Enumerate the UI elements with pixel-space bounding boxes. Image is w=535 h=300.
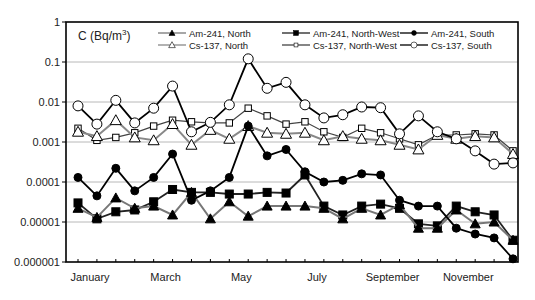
circle-marker xyxy=(262,83,272,93)
legend-item: Cs-137, South xyxy=(400,40,492,51)
y-tick-label: 0.0001 xyxy=(26,176,60,188)
circle-marker xyxy=(168,81,178,91)
circle-marker xyxy=(281,77,291,87)
circle-marker xyxy=(111,95,121,105)
y-axis-title-text: C (Bq/m3) xyxy=(78,28,130,43)
circle-marker xyxy=(300,100,310,110)
circle-marker xyxy=(131,187,139,195)
circle-marker xyxy=(244,122,252,130)
x-tick-label: March xyxy=(150,271,181,283)
circle-marker xyxy=(92,119,102,129)
circle-marker xyxy=(471,230,479,238)
legend-label: Cs-137, South xyxy=(431,40,492,51)
circle-marker xyxy=(489,159,499,169)
y-tick-label: 0.1 xyxy=(45,56,60,68)
circle-marker xyxy=(243,54,253,64)
legend: Am-241, NorthAm-241, North-WestAm-241, S… xyxy=(158,28,494,51)
circle-marker xyxy=(395,129,405,139)
circle-marker xyxy=(320,178,328,186)
circle-marker xyxy=(282,145,290,153)
circle-marker xyxy=(338,110,348,120)
circle-marker xyxy=(169,150,177,158)
square-marker xyxy=(226,120,232,126)
circle-marker xyxy=(319,113,329,123)
square-marker xyxy=(263,188,271,196)
series-line xyxy=(78,120,513,154)
circle-marker xyxy=(490,234,498,242)
legend-label: Am-241, South xyxy=(431,28,494,39)
circle-marker xyxy=(301,168,309,176)
circle-marker xyxy=(186,127,196,137)
circle-marker xyxy=(112,164,120,172)
legend-label: Am-241, North xyxy=(189,28,251,39)
series-line xyxy=(78,59,513,164)
legend-marker xyxy=(411,42,417,48)
circle-marker xyxy=(396,196,404,204)
legend-item: Cs-137, North xyxy=(158,40,248,51)
circle-marker xyxy=(412,31,417,36)
y-tick-label: 1 xyxy=(54,16,60,28)
square-marker xyxy=(377,200,385,208)
x-tick-label: January xyxy=(70,271,110,283)
square-marker xyxy=(302,119,308,125)
legend-marker xyxy=(412,31,417,36)
legend-label: Cs-137, North-West xyxy=(313,40,397,51)
square-marker xyxy=(294,43,298,47)
square-marker xyxy=(245,105,251,111)
legend-label: Cs-137, North xyxy=(189,40,248,51)
circle-marker xyxy=(263,152,271,160)
circle-marker xyxy=(413,111,423,121)
circle-marker xyxy=(225,173,233,181)
circle-marker xyxy=(73,101,83,111)
series-layer xyxy=(73,54,519,263)
chart: 10.10.010.0010.00010.000010.000001Januar… xyxy=(0,0,535,300)
legend-item: Am-241, South xyxy=(400,28,494,39)
series-line xyxy=(78,108,513,151)
circle-marker xyxy=(149,103,159,113)
circle-marker xyxy=(357,102,367,112)
circle-marker xyxy=(508,158,518,168)
circle-marker xyxy=(432,127,442,137)
circle-marker xyxy=(224,100,234,110)
triangle-marker xyxy=(111,193,121,202)
square-marker xyxy=(471,208,479,216)
circle-marker xyxy=(411,42,417,48)
legend-item: Am-241, North xyxy=(158,28,251,39)
legend-label: Am-241, North-West xyxy=(313,28,400,39)
circle-marker xyxy=(377,171,385,179)
square-marker xyxy=(282,189,290,197)
x-tick-label: July xyxy=(307,271,327,283)
triangle-marker xyxy=(110,115,121,125)
circle-marker xyxy=(93,192,101,200)
circle-marker xyxy=(358,170,366,178)
circle-marker xyxy=(187,196,195,204)
circle-marker xyxy=(451,134,461,144)
legend-item: Cs-137, North-West xyxy=(282,40,397,51)
x-tick-label: September xyxy=(366,271,420,283)
circle-marker xyxy=(205,117,215,127)
square-marker xyxy=(169,185,177,193)
circle-marker xyxy=(206,187,214,195)
square-marker xyxy=(358,125,364,131)
x-tick-label: May xyxy=(231,271,252,283)
series-cs-137-south xyxy=(73,54,518,169)
square-marker xyxy=(244,190,252,198)
y-axis-title: C (Bq/m3) xyxy=(78,28,130,43)
square-marker xyxy=(264,113,270,119)
circle-marker xyxy=(414,202,422,210)
circle-marker xyxy=(452,224,460,232)
circle-marker xyxy=(433,202,441,210)
y-tick-label: 0.001 xyxy=(32,136,60,148)
circle-marker xyxy=(74,173,82,181)
legend-marker xyxy=(294,43,298,47)
series-am-241-north xyxy=(73,187,518,244)
series-cs-137-north-west xyxy=(75,105,516,154)
y-tick-label: 0.000001 xyxy=(14,256,60,268)
circle-marker xyxy=(150,173,158,181)
circle-marker xyxy=(130,118,140,128)
square-marker xyxy=(112,208,120,216)
x-tick-label: November xyxy=(443,271,494,283)
series-line xyxy=(78,126,513,259)
y-tick-label: 0.01 xyxy=(39,96,60,108)
y-tick-label: 0.00001 xyxy=(20,216,60,228)
